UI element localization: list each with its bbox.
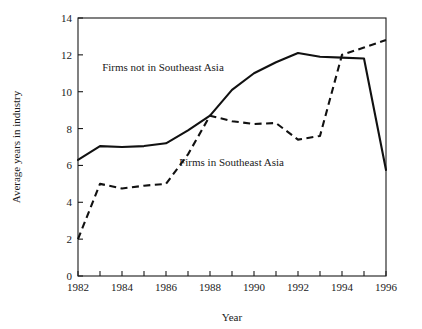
x-tick-label: 1992 [287,281,309,293]
y-tick-label: 12 [61,49,72,61]
x-tick-label: 1990 [243,281,266,293]
x-tick-label: 1994 [331,281,354,293]
x-tick-label: 1982 [67,281,89,293]
y-tick-label: 2 [67,233,73,245]
x-tick-label: 1996 [375,281,398,293]
x-tick-label: 1988 [199,281,222,293]
annotation-layer: Firms not in Southeast AsiaFirms in Sout… [102,61,284,168]
x-tick-label: 1986 [155,281,178,293]
x-tick-label: 1984 [111,281,134,293]
y-tick-label: 14 [61,12,73,24]
y-tick-label: 8 [67,123,73,135]
x-axis-title: Year [222,311,243,323]
y-axis-ticks: 02468101214 [61,12,83,282]
y-tick-label: 4 [67,196,73,208]
series-annotation-0: Firms not in Southeast Asia [102,61,224,73]
y-axis-title: Average years in industry [10,90,22,203]
series-annotation-1: Firms in Southeast Asia [179,156,284,168]
chart-container: 02468101214 1982198419861988199019921994… [0,0,422,329]
y-tick-label: 10 [61,86,73,98]
line-chart: 02468101214 1982198419861988199019921994… [0,0,422,329]
y-tick-label: 6 [67,159,73,171]
x-axis-ticks: 19821984198619881990199219941996 [67,271,398,293]
